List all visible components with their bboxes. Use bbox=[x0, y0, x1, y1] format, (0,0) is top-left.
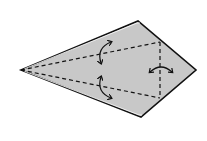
kite-base-fold-diagram bbox=[0, 0, 207, 141]
paper-kite-shape bbox=[21, 21, 196, 117]
